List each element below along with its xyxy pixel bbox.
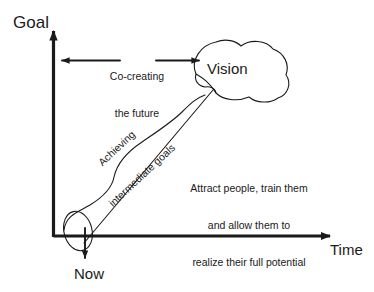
x-axis-label: Time <box>330 241 363 259</box>
y-axis-label: Goal <box>13 13 49 33</box>
now-label: Now <box>74 265 104 283</box>
origin-ellipse-highlight <box>60 208 97 254</box>
vision-label: Vision <box>207 60 248 78</box>
note-line-3: realize their full potential <box>190 256 308 268</box>
note-line-2: and allow them to <box>190 219 308 231</box>
note-text-block: Attract people, train them and allow the… <box>190 157 308 292</box>
span-arrow-label-line1: Co-creating <box>93 70 181 82</box>
vision-goal-time-diagram: Goal Time Now Vision Co-creating the fut… <box>0 0 374 292</box>
note-line-1: Attract people, train them <box>190 182 308 194</box>
